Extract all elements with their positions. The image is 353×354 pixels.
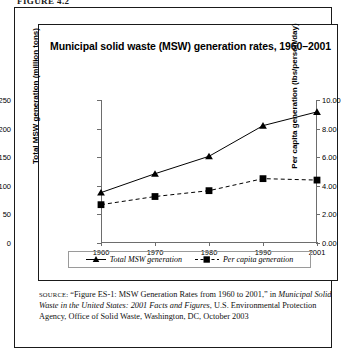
square-marker: [152, 193, 159, 200]
plot-area: 050100150200250 0.002.004.006.008.0010.0…: [101, 100, 317, 243]
left-tick-label: 100: [0, 182, 11, 191]
square-marker: [206, 187, 213, 194]
folio-label: FIGURE 4.2: [17, 0, 70, 4]
source-part1: “Figure ES-1: MSW Generation Rates from …: [68, 290, 278, 299]
legend-item-total: Total MSW generation: [86, 255, 182, 264]
source-label: SOURCE:: [39, 291, 68, 298]
chart-legend: Total MSW generation Per capita generati…: [68, 251, 311, 268]
legend-label-total: Total MSW generation: [110, 255, 182, 264]
x-tick-label: 2001: [309, 248, 326, 257]
legend-item-percapita: Per capita generation: [195, 255, 293, 264]
triangle-marker: [97, 189, 105, 196]
left-axis-title: Total MSW generation (million tons): [31, 28, 40, 164]
square-marker-icon: [195, 255, 219, 264]
x-tick: [317, 242, 318, 246]
triangle-marker: [151, 170, 159, 177]
square-marker: [314, 177, 321, 184]
left-tick-label: 50: [0, 210, 11, 219]
series-plot: [101, 100, 317, 243]
left-tick-label: 150: [0, 153, 11, 162]
legend-label-percapita: Per capita generation: [223, 255, 293, 264]
square-marker: [260, 175, 267, 182]
chart-panel: Municipal solid waste (MSW) generation r…: [38, 24, 338, 281]
triangle-marker: [313, 108, 321, 115]
right-tick-label: 6.00: [322, 153, 337, 162]
square-marker: [98, 201, 105, 208]
left-tick-label: 250: [0, 96, 11, 105]
left-tick-label: 200: [0, 125, 11, 134]
right-tick-label: 4.00: [322, 182, 337, 191]
triangle-marker-icon: [86, 255, 106, 264]
right-tick-label: 10.00: [322, 96, 341, 105]
left-tick-label: 0: [0, 239, 11, 248]
figure-outer-frame: Municipal solid waste (MSW) generation r…: [14, 7, 332, 348]
right-tick-label: 8.00: [322, 125, 337, 134]
series-line: [101, 112, 317, 193]
source-note: SOURCE: “Figure ES-1: MSW Generation Rat…: [39, 289, 339, 323]
triangle-marker: [205, 153, 213, 160]
right-tick-label: 2.00: [322, 210, 337, 219]
plot-wrapper: Total MSW generation (million tons) Per …: [39, 25, 339, 282]
right-tick-label: 0.00: [322, 239, 337, 248]
figure-page: FIGURE 4.2 Municipal solid waste (MSW) g…: [0, 0, 353, 354]
